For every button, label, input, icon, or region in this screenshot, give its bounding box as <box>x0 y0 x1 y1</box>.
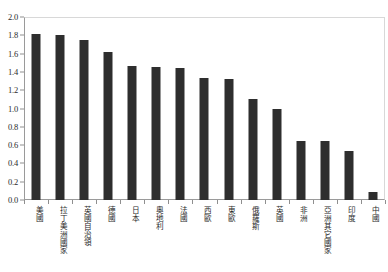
y-axis-tick-label: 0.4 <box>8 159 18 168</box>
bar-slot <box>337 17 361 200</box>
x-axis: 美國拉丁美洲國家英國自治領德國日本奧地利法國西歐東歐俄羅斯英國非洲亞洲其它國家印… <box>24 200 385 272</box>
x-axis-tick-mark <box>96 200 97 204</box>
x-axis-tick-label: 奧地利 <box>150 206 162 230</box>
bar-slot <box>96 17 120 200</box>
y-axis-tick-label: 0.0 <box>8 196 18 205</box>
y-axis-tick-label: 1.0 <box>8 104 18 113</box>
y-axis-tick-label: 1.4 <box>8 68 18 77</box>
x-axis-tick-label: 東歐 <box>223 206 235 222</box>
bar-slot <box>241 17 265 200</box>
bar <box>296 141 305 200</box>
bar-slot <box>24 17 48 200</box>
bar-chart: 2.01.81.61.41.21.00.80.60.40.20.0 美國拉丁美洲… <box>0 0 388 272</box>
y-axis-tick-label: 0.6 <box>8 141 18 150</box>
y-axis-tick-label: 0.8 <box>8 123 18 132</box>
bar-slot <box>144 17 168 200</box>
bar-slot <box>120 17 144 200</box>
bars-layer <box>24 17 385 200</box>
x-axis-tick-label: 美國 <box>30 206 42 222</box>
x-axis-tick-label: 印度 <box>343 206 355 222</box>
x-axis-tick-label: 非洲 <box>295 206 307 222</box>
bar-slot <box>72 17 96 200</box>
x-axis-tick-mark <box>337 200 338 204</box>
x-axis-tick-label: 英國自治領 <box>78 206 90 246</box>
y-axis-tick-label: 1.2 <box>8 86 18 95</box>
y-axis-tick-label: 1.8 <box>8 31 18 40</box>
bar <box>56 35 65 200</box>
bar <box>128 66 137 201</box>
bar-slot <box>48 17 72 200</box>
x-axis-tick-mark <box>192 200 193 204</box>
bar <box>32 34 41 200</box>
x-axis-tick-mark <box>120 200 121 204</box>
x-axis-tick-label: 德國 <box>102 206 114 222</box>
x-axis-tick-mark <box>265 200 266 204</box>
x-axis-tick-mark <box>144 200 145 204</box>
x-axis-tick-label: 中國 <box>367 206 379 222</box>
x-axis-tick-mark <box>168 200 169 204</box>
bar <box>176 68 185 200</box>
y-axis-tick-label: 1.6 <box>8 49 18 58</box>
y-axis-tick-label: 2.0 <box>8 13 18 22</box>
bar-slot <box>289 17 313 200</box>
x-axis-tick-label: 法國 <box>174 206 186 222</box>
x-axis-tick-label: 亞洲其它國家 <box>319 206 331 254</box>
bar <box>272 109 281 201</box>
bar <box>344 151 353 200</box>
bar <box>224 79 233 200</box>
x-axis-tick-mark <box>361 200 362 204</box>
x-axis-tick-mark <box>48 200 49 204</box>
x-axis-tick-mark <box>241 200 242 204</box>
bar <box>200 78 209 200</box>
y-axis-tick-label: 0.2 <box>8 177 18 186</box>
x-axis-tick-label: 日本 <box>126 206 138 222</box>
x-axis-tick-mark <box>72 200 73 204</box>
x-axis-tick-mark <box>289 200 290 204</box>
x-axis-tick-label: 拉丁美洲國家 <box>54 206 66 254</box>
y-axis: 2.01.81.61.41.21.00.80.60.40.20.0 <box>0 17 24 200</box>
bar <box>104 52 113 200</box>
bar <box>152 67 161 200</box>
x-axis-tick-label: 俄羅斯 <box>247 206 259 230</box>
bar-slot <box>217 17 241 200</box>
x-axis-tick-label: 西歐 <box>199 206 211 222</box>
bar <box>80 40 89 200</box>
x-axis-tick-label: 英國 <box>271 206 283 222</box>
bar-slot <box>168 17 192 200</box>
bar-slot <box>361 17 385 200</box>
bar-slot <box>313 17 337 200</box>
bar <box>248 99 257 200</box>
bar <box>320 141 329 200</box>
x-axis-tick-mark <box>24 200 25 204</box>
x-axis-tick-mark <box>313 200 314 204</box>
bar <box>368 192 377 200</box>
x-axis-tick-mark <box>385 200 386 204</box>
bar-slot <box>265 17 289 200</box>
bar-slot <box>192 17 216 200</box>
x-axis-tick-mark <box>217 200 218 204</box>
